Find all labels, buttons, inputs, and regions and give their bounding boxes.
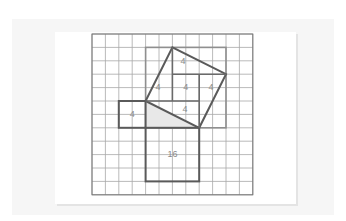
label-bottom-square: 16 (167, 149, 177, 159)
pythagorean-grid-diagram: 4 4 4 4 4 4 16 (0, 0, 346, 221)
label-small-square: 4 (130, 109, 135, 119)
label-tilted-left: 4 (155, 82, 160, 92)
label-tilted-top: 4 (180, 56, 185, 66)
label-tilted-center: 4 (183, 82, 188, 92)
label-tilted-right: 4 (208, 82, 213, 92)
label-tilted-bottom: 4 (182, 104, 187, 114)
